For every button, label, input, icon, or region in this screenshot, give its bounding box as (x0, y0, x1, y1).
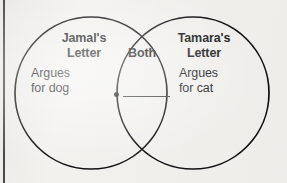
right-set-body-text: Argues for cat (179, 66, 257, 96)
right-set-title: Tamara's Letter (164, 31, 244, 61)
overlap-title: Both (119, 46, 165, 61)
venn-diagram-worksheet: Jamal's Letter Argues for dog Both Tamar… (0, 0, 287, 183)
overlap-answer-row[interactable] (114, 86, 170, 102)
bullet-dot-icon (114, 92, 119, 97)
left-set-title: Jamal's Letter (47, 31, 121, 61)
left-set-body-text: Argues for dog (31, 66, 111, 96)
overlap-answer-blank[interactable] (123, 96, 170, 97)
